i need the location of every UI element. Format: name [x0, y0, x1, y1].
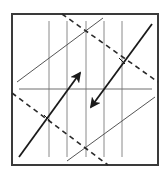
background: [0, 0, 166, 172]
crystal-diagram: [0, 0, 166, 172]
